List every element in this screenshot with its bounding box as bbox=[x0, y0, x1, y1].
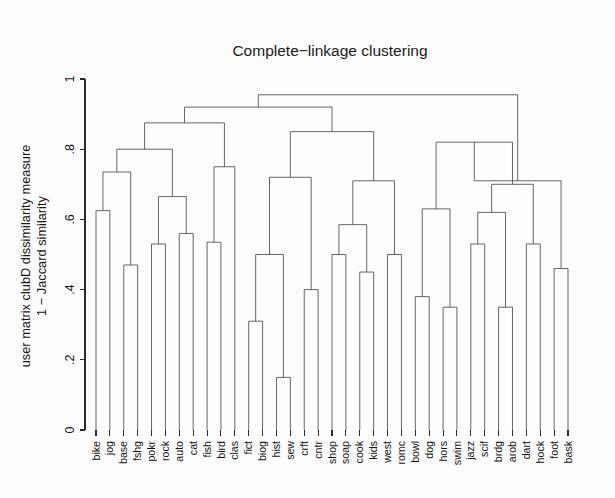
dendrogram-link bbox=[103, 172, 131, 265]
leaf-label: fict bbox=[242, 441, 254, 455]
leaf-label: bird bbox=[215, 441, 227, 459]
leaf-label: rock bbox=[159, 440, 171, 461]
leaf-label: hock bbox=[534, 440, 546, 463]
leaf-label: west bbox=[381, 441, 393, 464]
dendrogram-link bbox=[207, 242, 221, 430]
leaf-labels: bikejogbasefshgpokrrockautocatfishbirdcl… bbox=[90, 440, 574, 465]
leaf-label: fish bbox=[201, 441, 213, 458]
dendrogram-link bbox=[388, 255, 402, 431]
page-title: Complete−linkage clustering bbox=[232, 42, 427, 59]
dendrogram-link bbox=[185, 107, 333, 132]
leaf-label: scif bbox=[478, 441, 490, 457]
dendrogram-link bbox=[117, 149, 173, 196]
dendrogram-link bbox=[353, 181, 395, 255]
y-tick-label: 1 bbox=[63, 75, 77, 82]
dendrogram-branches bbox=[96, 95, 568, 430]
leaf-label: fshg bbox=[131, 441, 143, 461]
leaf-label: hors bbox=[437, 441, 449, 462]
dendrogram-link bbox=[179, 233, 193, 430]
leaf-label: cntr bbox=[312, 441, 324, 459]
dendrogram-link bbox=[360, 272, 374, 430]
dendrogram-link bbox=[471, 244, 485, 430]
leaf-label: jazz bbox=[464, 441, 476, 461]
dendrogram-link bbox=[478, 212, 506, 307]
leaf-label: bike bbox=[90, 441, 102, 461]
y-axis-label-group: user matrix clubD dissimilarity measure … bbox=[18, 145, 49, 368]
y-axis-label-line1: user matrix clubD dissimilarity measure bbox=[18, 145, 33, 368]
leaf-label: romc bbox=[395, 440, 407, 464]
dendrogram-link bbox=[499, 307, 513, 430]
dendrogram-link bbox=[258, 95, 517, 181]
leaf-label: swim bbox=[451, 441, 463, 465]
leaf-label: hist bbox=[270, 441, 282, 458]
leaf-label: cook bbox=[353, 440, 365, 463]
dendrogram-link bbox=[332, 255, 346, 431]
leaf-label: dog bbox=[423, 441, 435, 459]
leaf-label: arob bbox=[506, 441, 518, 462]
leaf-label: soap bbox=[339, 441, 351, 464]
y-axis-label-line2: 1 − Jaccard similarity bbox=[34, 195, 49, 315]
dendrogram-link bbox=[276, 377, 290, 430]
dendrogram-figure: Complete−linkage clustering user matrix … bbox=[0, 0, 615, 498]
leaf-label: pokr bbox=[145, 441, 157, 462]
title-group: Complete−linkage clustering bbox=[232, 42, 427, 59]
leaf-label: crft bbox=[298, 441, 310, 456]
dendrogram-link bbox=[158, 197, 186, 244]
dendrogram-link bbox=[492, 184, 534, 244]
dendrogram-link bbox=[152, 244, 166, 430]
leaf-label: base bbox=[117, 441, 129, 464]
leaf-label: bask bbox=[562, 440, 574, 463]
dendrogram-link bbox=[256, 255, 284, 378]
dendrogram-link bbox=[270, 177, 312, 289]
leaf-label: clas bbox=[228, 441, 240, 460]
dendrogram-link bbox=[145, 123, 225, 167]
leaf-label: bowl bbox=[409, 441, 421, 463]
y-tick-labels: 0.2.4.6.81 bbox=[63, 75, 77, 433]
dendrogram-link bbox=[526, 244, 540, 430]
leaf-label: foot bbox=[548, 441, 560, 459]
dendrogram-link bbox=[554, 269, 568, 430]
leaf-label: auto bbox=[173, 441, 185, 462]
dendrogram-link bbox=[124, 265, 138, 430]
y-tick-label: .4 bbox=[63, 284, 77, 294]
leaf-label: kids bbox=[367, 441, 379, 460]
leaf-label: shop bbox=[326, 441, 338, 464]
dendrogram-link bbox=[304, 290, 318, 430]
dendrogram-link bbox=[249, 321, 263, 430]
leaf-tick-marks bbox=[96, 430, 568, 436]
dendrogram-link bbox=[339, 225, 367, 272]
dendrogram-link bbox=[422, 209, 450, 307]
y-axis bbox=[80, 79, 85, 430]
dendrogram-link bbox=[96, 211, 110, 430]
plot-canvas: Complete−linkage clustering user matrix … bbox=[0, 0, 615, 498]
y-tick-label: .6 bbox=[63, 214, 77, 224]
y-tick-label: 0 bbox=[63, 426, 77, 433]
dendrogram-link bbox=[290, 132, 373, 181]
y-tick-label: .2 bbox=[63, 355, 77, 365]
leaf-label: cat bbox=[187, 441, 199, 455]
dendrogram-link bbox=[443, 307, 457, 430]
leaf-label: dart bbox=[520, 441, 532, 459]
leaf-label: jog bbox=[103, 441, 115, 456]
dendrogram-link bbox=[214, 167, 235, 430]
dendrogram-link bbox=[415, 297, 429, 430]
leaf-label: sew bbox=[284, 441, 296, 460]
y-tick-label: .8 bbox=[63, 144, 77, 154]
leaf-label: biog bbox=[256, 441, 268, 461]
leaf-label: brdg bbox=[492, 441, 504, 462]
